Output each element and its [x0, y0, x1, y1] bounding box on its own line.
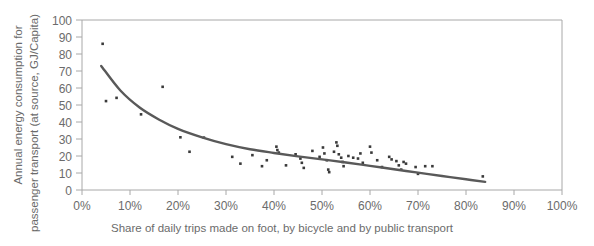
- data-point: [179, 136, 182, 139]
- data-point: [338, 153, 341, 156]
- data-point: [266, 159, 269, 162]
- data-point: [231, 156, 234, 159]
- x-tick-label: 100%: [547, 199, 578, 213]
- data-point: [328, 171, 331, 174]
- data-point: [402, 161, 405, 164]
- data-point: [336, 145, 339, 148]
- y-axis-title-line1: Annual energy consumption for: [12, 25, 24, 184]
- x-tick-label: 40%: [262, 199, 286, 213]
- data-point: [424, 165, 427, 168]
- y-axis-title-line2: passenger transport (at source, GJ/Capit…: [28, 14, 40, 232]
- x-axis-ticks: [82, 190, 562, 195]
- y-tick-label: 90: [59, 31, 73, 45]
- data-point: [340, 156, 343, 159]
- data-point: [301, 162, 304, 165]
- data-point: [318, 156, 321, 159]
- data-point: [302, 167, 305, 170]
- x-axis-title: Share of daily trips made on foot, by bi…: [111, 222, 454, 234]
- data-point: [357, 157, 360, 160]
- data-point: [101, 43, 104, 46]
- y-tick-label: 70: [59, 65, 73, 79]
- data-point: [239, 162, 242, 165]
- data-point: [285, 164, 288, 167]
- data-point: [105, 100, 108, 103]
- data-point: [388, 156, 391, 159]
- x-tick-label: 90%: [502, 199, 526, 213]
- data-point: [369, 145, 372, 148]
- x-tick-label: 60%: [358, 199, 382, 213]
- data-point: [370, 151, 373, 154]
- data-point: [275, 145, 278, 148]
- plot-frame: [82, 20, 562, 190]
- data-point: [414, 166, 417, 169]
- x-tick-label: 50%: [310, 199, 334, 213]
- y-tick-label: 80: [59, 48, 73, 62]
- y-tick-label: 0: [65, 184, 72, 198]
- data-point: [327, 168, 330, 171]
- data-point: [398, 164, 401, 167]
- data-point: [188, 150, 191, 153]
- data-point: [261, 165, 264, 168]
- data-point: [115, 97, 118, 100]
- data-point: [395, 160, 398, 163]
- x-axis-tick-labels: 0%10%20%30%40%50%60%70%80%90%100%: [73, 199, 577, 213]
- data-point: [251, 154, 254, 157]
- data-point: [161, 86, 164, 89]
- data-point: [376, 159, 379, 162]
- x-tick-label: 10%: [118, 199, 142, 213]
- data-point: [482, 175, 485, 178]
- scatter-chart: 0%10%20%30%40%50%60%70%80%90%100% 010203…: [0, 0, 594, 246]
- x-tick-label: 0%: [73, 199, 91, 213]
- y-tick-label: 40: [59, 116, 73, 130]
- y-tick-label: 10: [59, 167, 73, 181]
- y-axis-ticks: [76, 20, 82, 190]
- y-tick-label: 100: [52, 14, 72, 28]
- x-tick-label: 70%: [406, 199, 430, 213]
- data-point: [352, 156, 355, 159]
- data-point: [322, 146, 325, 149]
- data-point: [359, 152, 362, 155]
- data-point: [333, 150, 336, 153]
- x-tick-label: 30%: [214, 199, 238, 213]
- x-tick-label: 20%: [166, 199, 190, 213]
- chart-canvas: 0%10%20%30%40%50%60%70%80%90%100% 010203…: [0, 0, 594, 246]
- data-point: [335, 141, 338, 144]
- data-point: [276, 149, 279, 152]
- x-tick-label: 80%: [454, 199, 478, 213]
- data-points: [101, 43, 484, 178]
- y-axis-tick-labels: 0102030405060708090100: [52, 14, 72, 198]
- trend-line: [101, 66, 485, 182]
- data-point: [140, 113, 143, 116]
- plot-frame-lines: [82, 20, 562, 190]
- data-point: [405, 162, 408, 165]
- data-point: [347, 155, 350, 158]
- data-point: [311, 150, 314, 153]
- y-tick-label: 30: [59, 133, 73, 147]
- y-tick-label: 20: [59, 150, 73, 164]
- y-tick-label: 50: [59, 99, 73, 113]
- data-point: [390, 158, 393, 161]
- data-point: [323, 152, 326, 155]
- data-point: [431, 165, 434, 168]
- data-point: [342, 165, 345, 168]
- y-tick-label: 60: [59, 82, 73, 96]
